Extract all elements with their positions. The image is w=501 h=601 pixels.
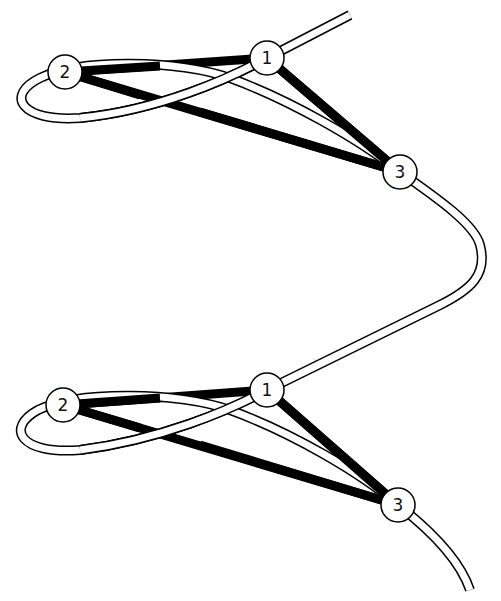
node-label: 2 xyxy=(60,62,71,82)
node-3-upper: 3 xyxy=(383,155,417,189)
diagram-canvas: 1 2 3 1 2 3 xyxy=(0,0,501,601)
node-label: 1 xyxy=(262,48,273,68)
node-2-upper: 2 xyxy=(48,55,82,89)
node-3-lower: 3 xyxy=(381,488,415,522)
node-label: 3 xyxy=(393,495,404,515)
node-1-upper: 1 xyxy=(250,41,284,75)
node-2-lower: 2 xyxy=(46,388,80,422)
node-1-lower: 1 xyxy=(250,373,284,407)
edge-overlaps xyxy=(63,58,400,505)
node-label: 3 xyxy=(395,162,406,182)
node-label: 1 xyxy=(262,380,273,400)
node-label: 2 xyxy=(58,395,69,415)
